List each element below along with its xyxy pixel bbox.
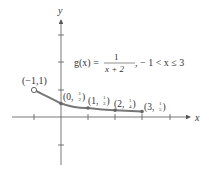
svg-text:x + 2: x + 2 bbox=[104, 64, 125, 74]
svg-text:(3,: (3, bbox=[144, 102, 154, 113]
svg-text:): ) bbox=[163, 102, 166, 113]
svg-text:(1,: (1, bbox=[88, 96, 98, 107]
point-0-label: (0, 1 2 ) bbox=[63, 91, 85, 103]
point-0 bbox=[59, 102, 63, 106]
point-3-label: (3, 1 5 ) bbox=[144, 101, 166, 113]
y-axis-label: y bbox=[57, 5, 63, 16]
svg-text:1: 1 bbox=[114, 52, 119, 62]
open-endpoint bbox=[31, 87, 36, 92]
svg-text:(2,: (2, bbox=[114, 99, 124, 110]
svg-text:): ) bbox=[107, 96, 110, 107]
point-1-label: (1, 1 3 ) bbox=[88, 95, 110, 107]
function-graph: x y (−1,1) (0, 1 2 ) (1, 1 3 ) (2, 1 4 )… bbox=[0, 0, 209, 173]
x-axis-label: x bbox=[194, 112, 200, 123]
svg-text:): ) bbox=[133, 99, 136, 110]
svg-text:): ) bbox=[82, 92, 85, 103]
point-1 bbox=[86, 106, 90, 110]
svg-text:g(x) =: g(x) = bbox=[74, 57, 99, 69]
svg-text:, − 1 < x ≤ 3: , − 1 < x ≤ 3 bbox=[135, 57, 184, 68]
point-2-label: (2, 1 4 ) bbox=[114, 98, 136, 110]
open-endpoint-label: (−1,1) bbox=[22, 75, 47, 87]
svg-text:(0,: (0, bbox=[63, 92, 73, 103]
function-label: g(x) = 1 x + 2 , − 1 < x ≤ 3 bbox=[74, 52, 184, 74]
